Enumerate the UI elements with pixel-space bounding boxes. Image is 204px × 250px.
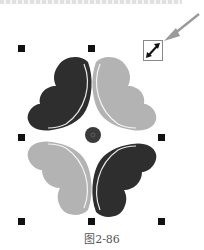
scale-handle-button[interactable] <box>143 40 163 61</box>
petal-bottom-right-dark[interactable] <box>92 143 156 216</box>
petal-top-right-light[interactable] <box>92 57 156 130</box>
selection-handle-middle-left[interactable] <box>18 134 25 141</box>
selection-handle-bottom-center[interactable] <box>88 218 95 225</box>
petal-bottom-left-light[interactable] <box>28 141 92 214</box>
selection-handle-bottom-left[interactable] <box>18 218 25 225</box>
center-pivot-dot[interactable] <box>85 127 101 143</box>
diagonal-resize-icon <box>144 41 162 60</box>
selection-handle-bottom-right[interactable] <box>158 218 165 225</box>
selection-handle-middle-right[interactable] <box>158 134 165 141</box>
figure-caption: 图2-86 <box>0 230 204 246</box>
selection-handle-top-center[interactable] <box>88 45 95 52</box>
petal-top-left-dark[interactable] <box>28 57 92 130</box>
arrow-pointer-icon <box>164 14 199 41</box>
artwork-canvas <box>0 0 204 250</box>
selection-handle-top-left[interactable] <box>18 45 25 52</box>
